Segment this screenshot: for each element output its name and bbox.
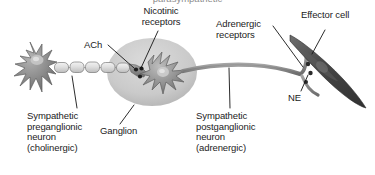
preganglionic-cell-body	[14, 42, 57, 92]
label-ne: NE	[288, 93, 301, 104]
myelin-sheath-segments	[55, 62, 130, 73]
autonomic-pathway-diagram: parasympathetic	[0, 0, 375, 175]
leader-postganglionic	[229, 68, 230, 108]
label-postganglionic-neuron: Sympathetic postganglionic neuron (adren…	[196, 111, 286, 153]
label-effector-cell: Effector cell	[301, 10, 349, 21]
leader-ganglion	[120, 105, 134, 124]
label-adrenergic-receptors: Adrenergic receptors	[216, 19, 276, 40]
leader-preganglionic	[72, 76, 77, 108]
label-nicotinic-receptors: Nicotinic receptors	[130, 6, 192, 27]
label-ach: ACh	[84, 40, 102, 51]
postganglionic-axon	[183, 50, 318, 95]
leader-effector	[312, 30, 325, 54]
label-preganglionic-neuron: Sympathetic preganglionic neuron (cholin…	[27, 111, 109, 153]
